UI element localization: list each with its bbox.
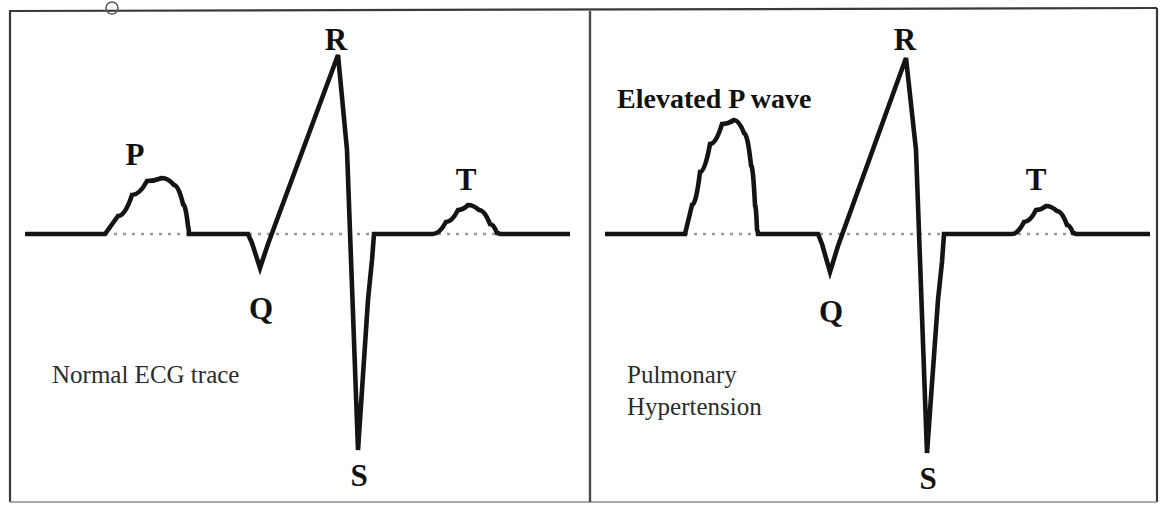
wave-label-t-normal: T	[456, 162, 477, 197]
wave-label-s-pulmonary: S	[919, 461, 936, 496]
wave-label-q-pulmonary: Q	[819, 294, 843, 329]
caption-pulmonary-line-2: Hypertension	[627, 393, 762, 420]
wave-label-p-normal: P	[126, 137, 145, 172]
wave-label-r-normal: R	[325, 22, 348, 57]
annotation-elevated-p-wave: Elevated P wave	[617, 83, 811, 114]
figure-background	[0, 0, 1165, 505]
ecg-diagram-canvas: P R Q S T Normal ECG trace Elevated P wa…	[0, 0, 1165, 505]
caption-pulmonary-line-1: Pulmonary	[627, 361, 737, 388]
wave-label-r-pulmonary: R	[894, 22, 917, 57]
wave-label-s-normal: S	[350, 458, 367, 493]
ecg-comparison-figure: P R Q S T Normal ECG trace Elevated P wa…	[0, 0, 1165, 505]
caption-normal-ecg-trace: Normal ECG trace	[52, 361, 239, 388]
wave-label-t-pulmonary: T	[1026, 162, 1047, 197]
wave-label-q-normal: Q	[249, 291, 273, 326]
